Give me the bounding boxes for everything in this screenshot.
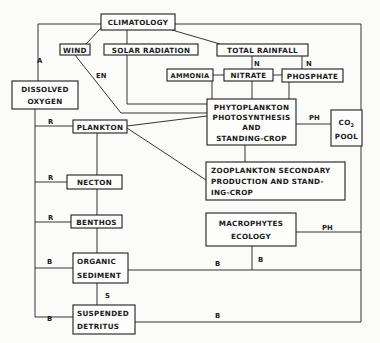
node-macrophytes: MACROPHYTES ECOLOGY [206,213,296,246]
node-label-line-1: ORGANIC [77,257,116,266]
node-label: TOTAL RAINFALL [227,46,298,55]
node-label-line-2: PRODUCTION AND STAND- [211,177,324,186]
edge-label-r-necton: R [48,174,54,182]
node-label-line-1: MACROPHYTES [219,219,283,228]
node-climatology: CLIMATOLOGY [101,14,175,30]
node-label-line-4: STANDING-CROP [216,134,287,143]
node-label: PLANKTON [77,123,123,132]
node-label: NECTON [77,178,112,187]
edge-label-ph-phyto: PH [309,114,320,122]
edge-label-ph-macrophytes: PH [322,224,333,232]
edge-plankton-phyto [127,116,207,126]
node-label: BENTHOS [76,218,117,227]
node-phytoplankton: PHYTOPLANKTON PHOTOSYNTHESIS AND STANDIN… [207,99,296,145]
node-label-line-1: ZOOPLANKTON SECONDARY [211,166,331,175]
node-dissolved-oxygen: DISSOLVED OXYGEN [12,81,78,109]
ecosystem-diagram: A EN N N PH R R R PH B B B S B B CLIMATO… [0,0,380,343]
node-suspended-detritus: SUSPENDED DETRITUS [73,305,135,334]
node-label-line-1: SUSPENDED [77,309,129,318]
node-label-line-2: DETRITUS [77,322,119,331]
node-phosphate: PHOSPHATE [282,69,343,82]
edge-oxygen-spine [35,109,73,317]
node-label-line-3: AND [242,123,260,132]
node-label: PHOSPHATE [287,72,338,81]
node-label-line-2: POOL [335,132,358,141]
node-label-line-2: ECOLOGY [231,232,271,241]
node-label: AMMONIA [170,72,210,80]
edge-label-r-plankton: R [48,118,54,126]
node-label: CLIMATOLOGY [108,18,169,27]
edge-label-b-sediment: B [47,258,52,266]
node-necton: NECTON [67,175,122,189]
node-ammonia: AMMONIA [167,69,213,81]
node-co2-pool: CO2 POOL [331,110,362,146]
node-organic-sediment: ORGANIC SEDIMENT [73,253,128,283]
edge-climatology-co2 [175,24,361,110]
edge-label-n-phosphate: N [306,60,312,68]
node-label: NITRATE [230,71,266,80]
node-wind: WIND [60,44,90,55]
node-label-line-3: ING-CROP [211,188,253,197]
co2-subscript: 2 [351,122,355,128]
edge-label-b-sediment-right: B [215,260,220,268]
node-zooplankton: ZOOPLANKTON SECONDARY PRODUCTION AND STA… [206,162,345,200]
edge-label-a: A [37,57,43,65]
edge-label-s: S [105,292,110,300]
node-label-line-2: SEDIMENT [77,271,121,280]
edge-plankton-zoo [127,128,206,180]
co2-main: CO [339,118,351,127]
node-label: WIND [63,46,87,55]
edge-label-b-detritus-right: B [215,312,220,320]
node-label-line-2: PHOTOSYNTHESIS [213,113,291,122]
edge-climatology-wind [86,28,101,44]
edge-label-en: EN [96,72,107,80]
node-solar-radiation: SOLAR RADIATION [104,44,198,55]
node-total-rainfall: TOTAL RAINFALL [217,44,308,56]
node-benthos: BENTHOS [71,215,122,228]
edge-label-r-benthos: R [48,214,54,222]
node-plankton: PLANKTON [73,120,127,133]
edge-label-b-detritus: B [47,315,52,323]
node-label: SOLAR RADIATION [112,46,190,55]
node-nitrate: NITRATE [224,69,273,81]
node-label-line-1: PHYTOPLANKTON [214,103,289,112]
edge-label-n-nitrate: N [254,60,260,68]
edge-label-b-macrophytes: B [258,256,263,264]
node-label-line-2: OXYGEN [27,97,62,106]
edge-climatology-rainfall [172,30,220,44]
node-label-line-1: DISSOLVED [21,85,69,94]
